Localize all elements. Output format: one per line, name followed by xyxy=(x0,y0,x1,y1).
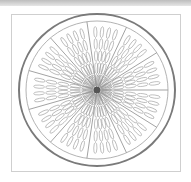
citrus-slice-illustration xyxy=(0,0,191,182)
